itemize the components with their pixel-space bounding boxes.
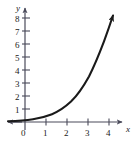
y-tick-label-6: 6: [15, 40, 20, 50]
y-axis-ticks: [22, 18, 30, 109]
x-tick-label-4: 4: [106, 128, 111, 138]
y-tick-label-3: 3: [15, 79, 20, 89]
x-tick-label-3: 3: [85, 128, 90, 138]
y-tick-label-4: 4: [15, 66, 20, 76]
y-tick-label-2: 2: [15, 92, 20, 102]
x-axis-label: x: [125, 124, 130, 134]
x-tick-label-1: 1: [43, 128, 48, 138]
exponential-graph-figure: y x 0 1 2 3 4 1 2 3 4 5 6 7 8: [0, 0, 134, 141]
y-axis-label: y: [15, 3, 20, 13]
y-tick-label-5: 5: [15, 53, 20, 63]
y-tick-label-8: 8: [15, 14, 20, 24]
x-tick-label-2: 2: [64, 128, 69, 138]
y-tick-label-7: 7: [15, 27, 20, 37]
x-tick-label-0: 0: [21, 128, 26, 138]
plot-canvas: y x 0 1 2 3 4 1 2 3 4 5 6 7 8: [0, 0, 134, 141]
y-tick-label-1: 1: [15, 105, 20, 115]
